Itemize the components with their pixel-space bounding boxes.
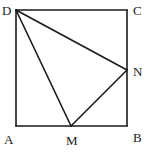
segment-dm (16, 10, 71, 126)
segment-dn (16, 10, 127, 70)
label-n: N (133, 64, 143, 79)
label-b: B (133, 130, 142, 145)
label-a: A (4, 132, 14, 147)
geometry-diagram: D C N A M B (0, 0, 148, 152)
label-m: M (66, 133, 78, 148)
segment-mn (71, 70, 127, 126)
label-c: C (133, 3, 142, 18)
label-d: D (2, 3, 11, 18)
